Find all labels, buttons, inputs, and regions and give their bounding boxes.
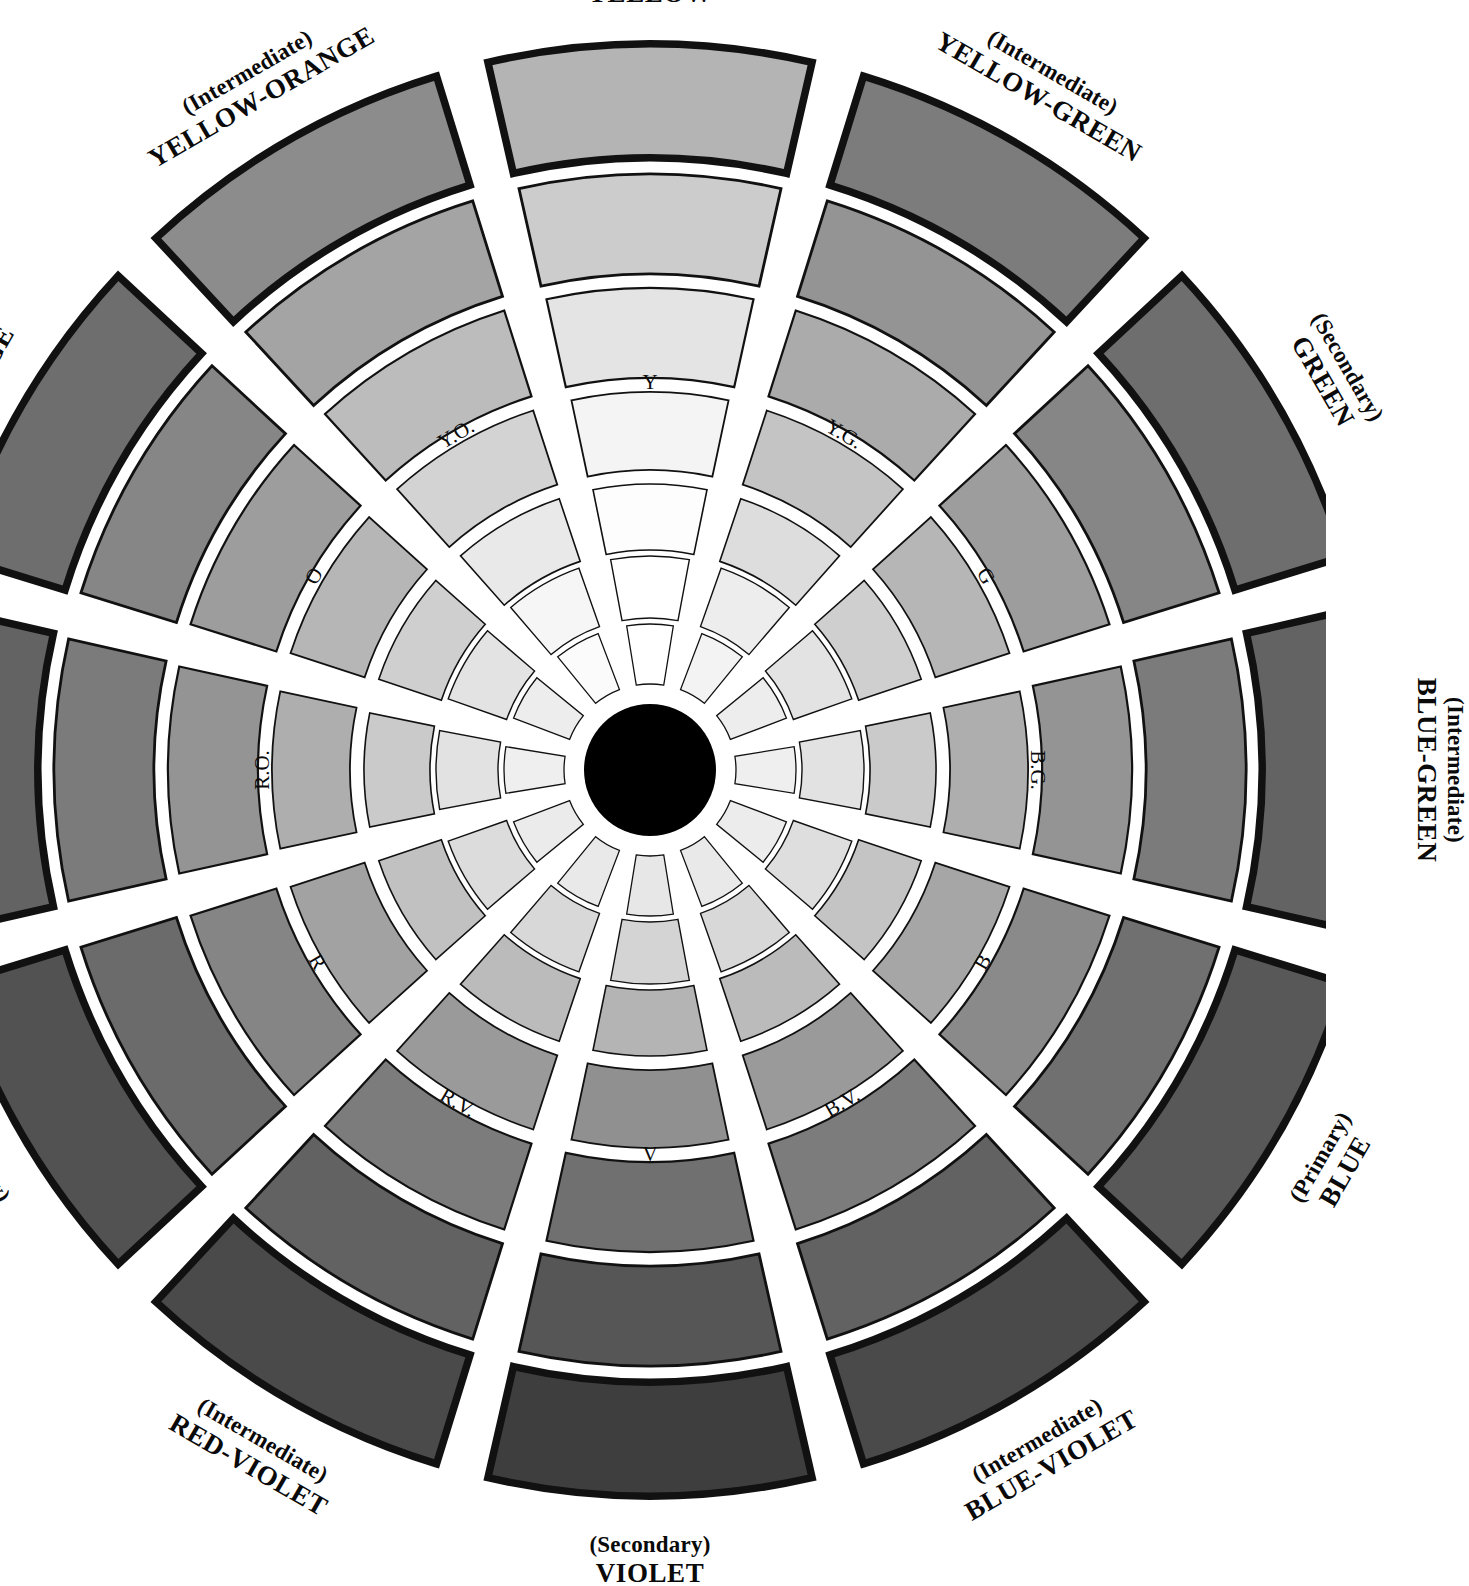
hub-layer — [584, 704, 716, 836]
outer-label-violet: (Secondary)VIOLET — [589, 1532, 710, 1586]
wheel-segment-blue-ring1 — [717, 801, 787, 863]
abbrev-label-red-orange: R.O. — [250, 750, 274, 790]
abbrev-label-blue-green: B.G. — [1026, 750, 1050, 790]
wheel-segment-yellow-ring6 — [519, 174, 781, 286]
wheel-segment-yellow-orange-ring1 — [558, 634, 620, 704]
wheel-segment-red-orange-ring6 — [54, 639, 166, 901]
wheel-segment-yellow-ring1 — [627, 624, 674, 685]
wheel-segment-violet-ring3 — [593, 986, 707, 1056]
outer-label-name: YELLOW — [587, 0, 712, 8]
wheel-segment-violet-ring6 — [519, 1254, 781, 1366]
wheel-segment-yellow-ring2 — [611, 556, 690, 621]
outer-label-blue-green: (Intermediate)BLUE-GREEN — [1412, 678, 1469, 863]
wheel-segment-red-orange-ring3 — [364, 713, 434, 827]
wheel-segment-red-orange-ring1 — [504, 747, 565, 794]
wheel-segment-yellow-ring3 — [593, 484, 707, 554]
wheel-segment-yellow-ring7 — [488, 44, 812, 173]
outer-label-qualifier: (Secondary) — [589, 1532, 710, 1558]
wheel-segment-violet-ring7 — [488, 1367, 812, 1496]
wheel-segment-blue-green-ring4 — [943, 691, 1028, 848]
wheel-segment-violet-ring1 — [627, 855, 674, 916]
abbrev-label-violet: V — [642, 1142, 657, 1166]
wheel-segment-red-orange-ring7 — [0, 608, 53, 932]
outer-label-yellow: (Primary)YELLOW — [587, 0, 712, 8]
wheel-segment-blue-green-ring6 — [1134, 639, 1246, 901]
outer-label-name: BLUE-GREEN — [1412, 678, 1443, 863]
wheel-segment-green-ring1 — [717, 678, 787, 740]
center-hub — [584, 704, 716, 836]
wheel-segment-blue-violet-ring1 — [681, 837, 743, 907]
outer-label-qualifier: (Intermediate) — [1442, 678, 1468, 863]
wheel-segment-yellow-green-ring1 — [681, 634, 743, 704]
wheel-segment-red-violet-ring1 — [558, 837, 620, 907]
wheel-segment-blue-green-ring2 — [799, 731, 864, 810]
wheel-segment-blue-green-ring1 — [735, 747, 796, 794]
abbrev-label-yellow: Y — [642, 370, 657, 394]
wheel-segment-red-orange-ring4 — [272, 691, 357, 848]
wheel-segment-violet-ring4 — [571, 1063, 728, 1148]
wheel-segment-violet-ring2 — [611, 919, 690, 984]
wheel-segment-blue-green-ring3 — [866, 713, 936, 827]
wheel-segment-blue-green-ring7 — [1247, 608, 1326, 932]
wheel-segment-red-ring1 — [514, 801, 584, 863]
outer-label-name: VIOLET — [589, 1558, 710, 1586]
wheel-segment-yellow-ring4 — [571, 392, 728, 477]
wheel-segment-orange-ring1 — [514, 678, 584, 740]
wheel-segment-red-orange-ring2 — [436, 731, 501, 810]
wheel-segment-violet-ring5 — [547, 1153, 754, 1252]
